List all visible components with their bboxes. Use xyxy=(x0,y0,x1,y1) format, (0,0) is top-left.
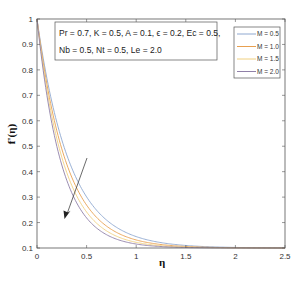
legend: M = 0.5M = 1.0M = 1.5M = 2.0 xyxy=(234,27,280,78)
x-axis-label: η xyxy=(159,256,165,268)
y-tick-label: 0.3 xyxy=(22,193,34,202)
x-tick-label: 0 xyxy=(35,252,40,261)
y-tick-label: 0.1 xyxy=(22,244,34,253)
legend-label-2: M = 1.0 xyxy=(257,43,279,50)
y-tick-label: 1 xyxy=(29,15,34,24)
x-tick-label: 2.5 xyxy=(279,252,291,261)
x-tick-label: 0.5 xyxy=(81,252,93,261)
y-tick-label: 0.2 xyxy=(22,219,34,228)
legend-label-1: M = 0.5 xyxy=(257,30,279,37)
annotation-line-1: Pr = 0.7, K = 0.5, A = 0.1, ϵ = 0.2, Ec … xyxy=(59,28,220,38)
annotation-line-2: Nb = 0.5, Nt = 0.5, Le = 2.0 xyxy=(59,45,162,55)
y-tick-label: 0.5 xyxy=(22,142,34,151)
x-tick-label: 1.5 xyxy=(180,252,192,261)
legend-label-4: M = 2.0 xyxy=(257,68,279,75)
y-tick-label: 0.7 xyxy=(22,91,34,100)
y-tick-label: 0.8 xyxy=(22,66,34,75)
legend-label-3: M = 1.5 xyxy=(257,55,279,62)
chart: 00.511.522.5 0.10.20.30.40.50.60.70.80.9… xyxy=(0,0,305,282)
y-tick-label: 0.6 xyxy=(22,117,34,126)
parameter-annotation-box: Pr = 0.7, K = 0.5, A = 0.1, ϵ = 0.2, Ec … xyxy=(55,22,220,60)
y-axis-label: f'(η) xyxy=(5,124,18,145)
y-tick-label: 0.4 xyxy=(22,168,34,177)
x-tick-label: 2 xyxy=(233,252,238,261)
x-tick-label: 1 xyxy=(134,252,139,261)
y-tick-label: 0.9 xyxy=(22,40,34,49)
